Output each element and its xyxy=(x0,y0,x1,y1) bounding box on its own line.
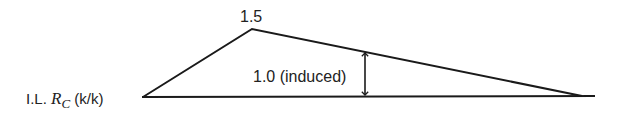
axis-label: I.L. RC (k/k) xyxy=(26,89,103,111)
baseline xyxy=(142,96,595,97)
influence-line xyxy=(143,29,582,97)
axis-label-prefix: I.L. xyxy=(26,90,51,107)
axis-label-units: (k/k) xyxy=(70,90,103,107)
axis-label-subscript: C xyxy=(61,96,70,111)
peak-label: 1.5 xyxy=(240,8,262,25)
influence-line-diagram: 1.5 1.0 (induced) I.L. RC (k/k) xyxy=(0,0,623,116)
induced-label: 1.0 (induced) xyxy=(253,68,346,85)
axis-label-variable: R xyxy=(50,89,62,108)
